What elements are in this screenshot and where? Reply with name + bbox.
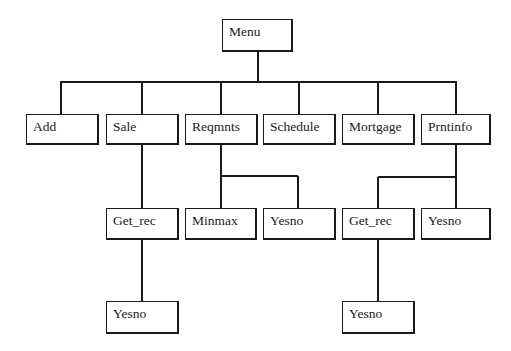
node-label: Prntinfo <box>428 119 472 134</box>
node-label: Get_rec <box>113 213 156 228</box>
node-sale: Sale <box>106 114 179 145</box>
node-label: Menu <box>229 24 261 39</box>
node-prntinfo-get-rec: Get_rec <box>342 208 415 240</box>
node-menu: Menu <box>222 19 293 52</box>
node-reqmnts-yesno: Yesno <box>263 208 336 240</box>
node-reqmnts-minmax: Minmax <box>185 208 257 240</box>
node-label: Yesno <box>270 213 303 228</box>
node-label: Yesno <box>428 213 461 228</box>
node-label: Schedule <box>270 119 320 134</box>
node-schedule: Schedule <box>263 114 336 145</box>
node-label: Reqmnts <box>192 119 240 134</box>
node-label: Mortgage <box>349 119 401 134</box>
node-reqmnts: Reqmnts <box>185 114 258 145</box>
connector-lines <box>0 0 511 351</box>
node-add: Add <box>26 114 99 145</box>
node-label: Sale <box>113 119 136 134</box>
structure-chart: Menu Add Sale Reqmnts Schedule Mortgage … <box>0 0 511 351</box>
node-prntinfo-get-rec-yesno: Yesno <box>342 301 415 334</box>
node-prntinfo-yesno: Yesno <box>421 208 491 240</box>
node-label: Add <box>33 119 56 134</box>
node-label: Minmax <box>192 213 238 228</box>
node-label: Yesno <box>113 306 146 321</box>
node-sale-get-rec: Get_rec <box>106 208 179 240</box>
node-label: Yesno <box>349 306 382 321</box>
node-mortgage: Mortgage <box>342 114 415 145</box>
node-label: Get_rec <box>349 213 392 228</box>
node-prntinfo: Prntinfo <box>421 114 491 145</box>
node-sale-get-rec-yesno: Yesno <box>106 301 179 334</box>
